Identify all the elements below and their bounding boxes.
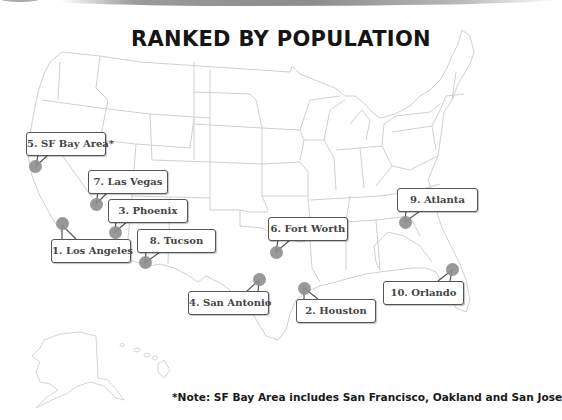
city-marker-houston[interactable] [298,282,311,295]
city-marker-san-antonio[interactable] [253,273,266,286]
city-label-atlanta: 9. Atlanta [397,188,478,212]
hawaii-island [134,348,140,352]
hawaii-island [153,356,158,360]
city-label-houston: 2. Houston [296,299,376,323]
hawaii-island [144,353,150,357]
alaska-outline [32,332,124,408]
city-label-san-antonio: 4. San Antonio [188,291,269,315]
city-label-phoenix: 3. Phoenix [108,199,188,223]
city-marker-los-angeles[interactable] [56,217,69,230]
city-marker-tucson[interactable] [139,256,152,269]
hawaii-island [158,360,170,378]
city-label-las-vegas: 7. Las Vegas [88,170,168,194]
hawaii-island [120,344,124,347]
city-label-fort-worth: 6. Fort Worth [268,217,348,241]
city-label-orlando: 10. Orlando [383,281,464,305]
footnote: *Note: SF Bay Area includes San Francisc… [172,391,562,403]
city-marker-phoenix[interactable] [109,226,122,239]
city-marker-orlando[interactable] [446,263,459,276]
city-marker-las-vegas[interactable] [90,198,103,211]
city-label-los-angeles: 1. Los Angeles [51,239,131,263]
city-marker-atlanta[interactable] [399,216,412,229]
city-marker-fort-worth[interactable] [270,246,283,259]
city-label-sf-bay-area: 5. SF Bay Area* [26,132,106,156]
city-marker-sf-bay-area[interactable] [29,160,42,173]
city-label-tucson: 8. Tucson [137,229,216,253]
